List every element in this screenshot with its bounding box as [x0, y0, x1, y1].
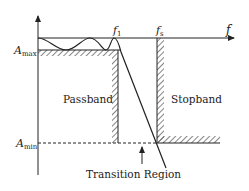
passband-label: Passband: [63, 93, 113, 105]
amax-label: Amax: [13, 44, 37, 58]
transition-region-label: Transition Region: [86, 168, 181, 180]
amax-hatch: [38, 50, 118, 56]
amin-label: Amin: [15, 137, 38, 151]
stopband-floor-hatch: [157, 136, 220, 143]
stopband-edge-hatch: [157, 38, 164, 143]
stopband-label: Stopband: [171, 93, 222, 105]
frequency-axis-label: f: [225, 23, 233, 37]
f1-label: f1: [112, 24, 122, 38]
fs-label: fs: [155, 24, 164, 38]
filter-spec-diagram: Amax Amin f1 fs f Passband Stopband Tran…: [0, 0, 249, 191]
